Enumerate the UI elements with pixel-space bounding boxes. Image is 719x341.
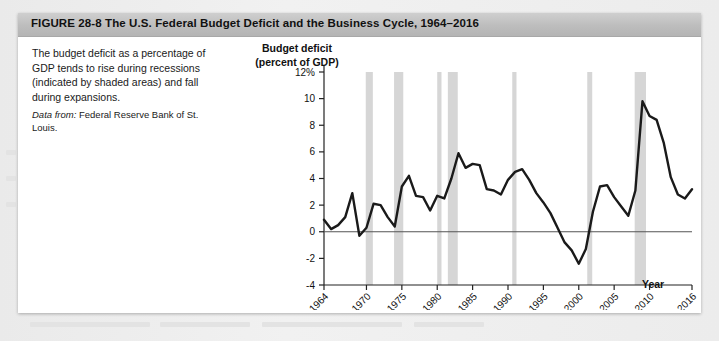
y-tick-label: 10 [304, 93, 316, 104]
x-tick-label: 2016 [675, 290, 698, 310]
figure-caption-block: The budget deficit as a percentage of GD… [32, 46, 218, 134]
figure-card: FIGURE 28-8 The U.S. Federal Budget Defi… [18, 13, 701, 313]
x-tick-label: 1980 [420, 290, 444, 310]
recession-band [394, 72, 403, 285]
y-tick-label: -4 [306, 280, 315, 291]
x-axis-group: 1964197019751980198519901995200020052010… [307, 285, 698, 310]
y-tick-label: -2 [306, 253, 315, 264]
y-tick-label: 6 [309, 146, 315, 157]
x-axis-title: Year [642, 278, 664, 290]
figure-title: FIGURE 28-8 The U.S. Federal Budget Defi… [31, 17, 479, 29]
x-tick-label: 2005 [597, 290, 621, 310]
x-tick-label: 1975 [385, 290, 409, 310]
chart-plot-area: Budget deficit (percent of GDP) 12%10864… [218, 40, 698, 310]
y-tick-label: 2 [309, 200, 315, 211]
recession-band [366, 72, 373, 285]
x-tick-label: 2010 [632, 290, 656, 310]
x-tick-label: 2000 [562, 290, 586, 310]
x-tick-label: 1964 [307, 290, 331, 310]
y-tick-label: 8 [309, 120, 315, 131]
recession-band [448, 72, 458, 285]
y-tick-label: 12% [295, 67, 315, 78]
x-tick-label: 1990 [491, 290, 515, 310]
caption-source: Data from: Federal Reserve Bank of St. L… [32, 109, 218, 134]
x-tick-label: 1970 [349, 290, 373, 310]
recession-band [437, 72, 441, 285]
x-tick-label: 1995 [526, 290, 550, 310]
y-axis-group: 12%1086420-2-4 [295, 66, 324, 291]
x-tick-label: 1985 [456, 290, 480, 310]
recession-band [587, 72, 592, 285]
figure-header-bar: FIGURE 28-8 The U.S. Federal Budget Defi… [18, 13, 701, 37]
caption-text: The budget deficit as a percentage of GD… [32, 46, 218, 104]
y-tick-label: 0 [309, 226, 315, 237]
recession-band [512, 72, 516, 285]
source-label: Data from: [32, 109, 76, 120]
y-tick-label: 4 [309, 173, 315, 184]
budget-deficit-line-chart: 12%1086420-2-4 1964197019751980198519901… [218, 40, 698, 310]
